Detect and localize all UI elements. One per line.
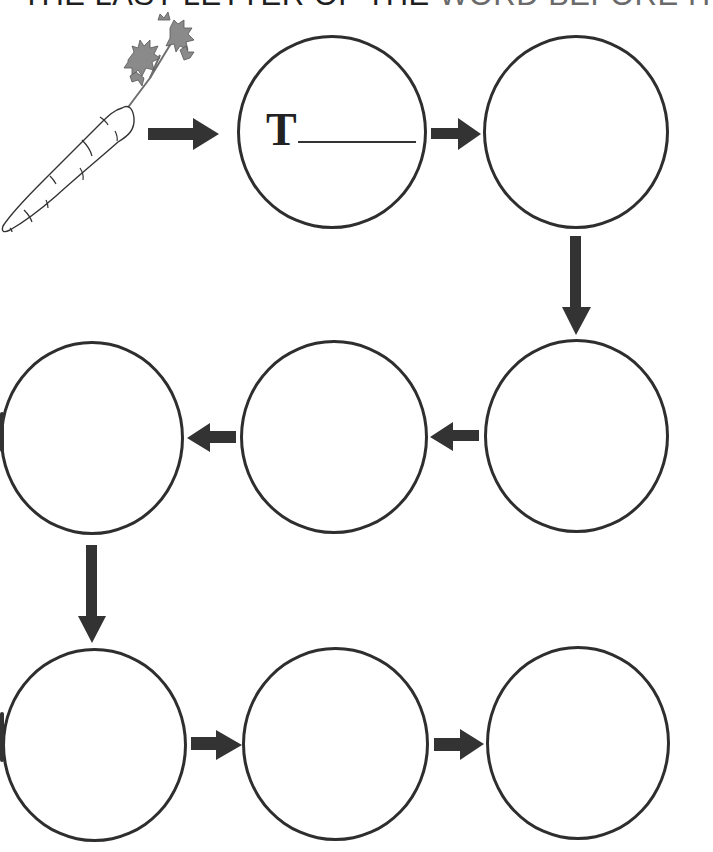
- arrow-left-icon: [430, 422, 479, 451]
- arrow-right-icon: [191, 730, 242, 760]
- arrow-left-icon: [187, 423, 236, 452]
- arrow-down-icon: [562, 236, 591, 335]
- arrow-right-icon: [148, 118, 219, 150]
- arrow-right-icon: [434, 729, 484, 760]
- arrow-right-icon: [431, 118, 481, 150]
- arrow-down-icon: [78, 545, 106, 643]
